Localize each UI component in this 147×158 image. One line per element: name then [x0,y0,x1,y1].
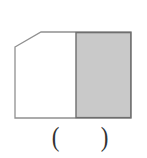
worksheet-area: ( ) [0,0,147,158]
close-paren: ) [101,124,109,151]
answer-blank[interactable]: ( ) [51,122,109,152]
open-paren: ( [52,124,60,151]
shaded-right-half [76,33,131,118]
